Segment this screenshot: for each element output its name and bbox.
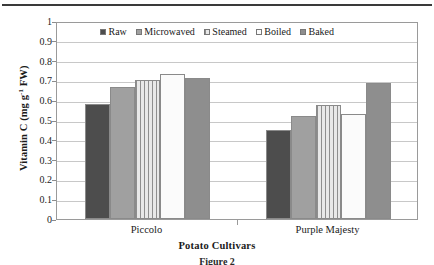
y-axis-tick-mark — [52, 22, 56, 23]
legend-item-baked[interactable]: Baked — [300, 26, 334, 37]
bar-group — [85, 23, 210, 219]
y-axis-tick-label: 0.8 — [6, 57, 52, 67]
y-axis-tick-label: 0.4 — [6, 136, 52, 146]
x-axis-category-label: Piccolo — [87, 224, 207, 235]
y-axis-tick-mark — [52, 180, 56, 181]
y-axis-tick-label: 0.9 — [6, 37, 52, 47]
y-axis-tick-label: 0.5 — [6, 116, 52, 126]
y-axis-tick-mark — [52, 160, 56, 161]
legend-swatch-raw-icon — [100, 29, 106, 35]
legend-item-microwaved[interactable]: Microwaved — [136, 26, 195, 37]
y-axis-tick-mark — [52, 81, 56, 82]
bar-baked-piccolo[interactable] — [185, 78, 210, 219]
y-axis-tick-mark — [52, 140, 56, 141]
x-axis-tick-mark — [237, 220, 238, 225]
legend-swatch-boiled-icon — [256, 29, 262, 35]
x-axis-title: Potato Cultivars — [0, 240, 434, 251]
x-axis-category-label: Purple Majesty — [268, 224, 388, 235]
y-axis-title-superscript: -1 — [17, 89, 25, 95]
legend-swatch-microwaved-icon — [136, 29, 142, 35]
y-axis-tick-label: 0 — [6, 215, 52, 225]
legend-swatch-steamed-icon — [204, 29, 210, 35]
y-axis-tick-label: 0.1 — [6, 195, 52, 205]
y-axis-tick-label: 0.6 — [6, 96, 52, 106]
top-horizontal-rule — [2, 4, 432, 6]
bar-boiled-purple-majesty[interactable] — [341, 114, 366, 219]
legend-label: Boiled — [264, 26, 291, 37]
legend-item-boiled[interactable]: Boiled — [256, 26, 291, 37]
bar-boiled-piccolo[interactable] — [160, 74, 185, 219]
bar-steamed-piccolo[interactable] — [135, 80, 160, 219]
y-axis-tick-mark — [52, 41, 56, 42]
legend-swatch-baked-icon — [300, 29, 306, 35]
bar-group — [266, 23, 391, 219]
bar-microwaved-piccolo[interactable] — [110, 87, 135, 219]
y-axis-tick-mark — [52, 200, 56, 201]
plot-area — [56, 22, 418, 220]
legend-label: Raw — [108, 26, 126, 37]
legend-label: Microwaved — [144, 26, 195, 37]
y-axis-tick-mark — [52, 121, 56, 122]
figure-container: Vitamin C (mg g-1 FW) 00.10.20.30.40.50.… — [0, 0, 434, 265]
y-axis-tick-label: 0.7 — [6, 76, 52, 86]
y-axis-tick-mark — [52, 101, 56, 102]
bar-raw-purple-majesty[interactable] — [266, 130, 291, 219]
bar-raw-piccolo[interactable] — [85, 104, 110, 219]
figure-caption: Figure 2 — [0, 256, 434, 265]
chart-legend: RawMicrowavedSteamedBoiledBaked — [0, 26, 434, 37]
legend-item-raw[interactable]: Raw — [100, 26, 127, 37]
legend-label: Steamed — [212, 26, 246, 37]
y-axis-tick-mark — [52, 220, 56, 221]
bar-steamed-purple-majesty[interactable] — [316, 105, 341, 219]
y-axis-tick-mark — [52, 61, 56, 62]
y-axis-tick-label: 0.3 — [6, 156, 52, 166]
bar-baked-purple-majesty[interactable] — [366, 83, 391, 219]
bar-microwaved-purple-majesty[interactable] — [291, 116, 316, 219]
legend-item-steamed[interactable]: Steamed — [204, 26, 247, 37]
y-axis-tick-label: 0.2 — [6, 175, 52, 185]
legend-label: Baked — [308, 26, 334, 37]
